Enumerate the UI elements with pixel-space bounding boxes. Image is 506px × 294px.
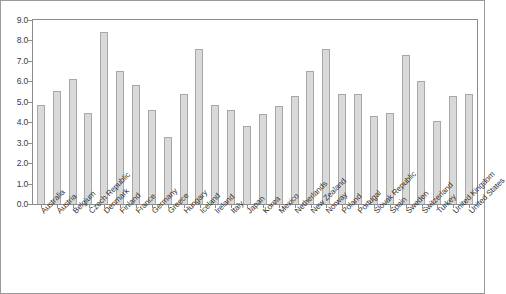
bar-slot <box>176 20 192 204</box>
bar <box>100 32 108 204</box>
bar <box>180 94 188 204</box>
bar-slot <box>461 20 477 204</box>
x-axis-labels: AustraliaAustriaBelgiumCzech RepublicDen… <box>33 209 477 293</box>
bar-slot <box>65 20 81 204</box>
y-axis-tick-label: 1.0 <box>17 179 28 189</box>
y-axis-tick-label: 8.0 <box>17 35 28 45</box>
bar <box>211 105 219 204</box>
bar <box>132 85 140 204</box>
bar <box>354 94 362 204</box>
bar <box>259 114 267 204</box>
y-axis-tick-label: 9.0 <box>17 15 28 25</box>
y-axis-tick-label: 4.0 <box>17 117 28 127</box>
y-axis-tick-mark <box>28 40 32 41</box>
y-axis-tick-mark <box>28 204 32 205</box>
y-axis-tick-mark <box>28 122 32 123</box>
bar-slot <box>160 20 176 204</box>
y-axis-tick-mark <box>28 143 32 144</box>
y-axis-tick-mark <box>28 102 32 103</box>
y-axis-tick-label: 6.0 <box>17 76 28 86</box>
bar-slot <box>350 20 366 204</box>
bar <box>291 96 299 204</box>
bar-slot <box>429 20 445 204</box>
bar <box>417 81 425 204</box>
y-axis-tick-mark <box>28 81 32 82</box>
bar-slot <box>382 20 398 204</box>
bar <box>243 126 251 204</box>
bar-slot <box>192 20 208 204</box>
bar-slot <box>207 20 223 204</box>
bar-slot <box>318 20 334 204</box>
y-axis-tick-label: 3.0 <box>17 138 28 148</box>
y-axis-tick-label: 5.0 <box>17 97 28 107</box>
bar-slot <box>144 20 160 204</box>
y-axis-tick-label: 2.0 <box>17 158 28 168</box>
bar-slot <box>239 20 255 204</box>
bar <box>195 49 203 204</box>
bar <box>37 105 45 204</box>
y-axis-tick-mark <box>28 163 32 164</box>
bar-slot <box>287 20 303 204</box>
y-axis: 9.08.07.06.05.04.03.02.01.00.0 <box>1 19 28 205</box>
bar-slot <box>255 20 271 204</box>
bar-slot <box>96 20 112 204</box>
y-axis-tick-mark <box>28 61 32 62</box>
bar-slot <box>81 20 97 204</box>
y-axis-tick-mark <box>28 184 32 185</box>
bar-slot <box>33 20 49 204</box>
y-axis-tick-label: 0.0 <box>17 199 28 209</box>
bar <box>306 71 314 204</box>
bar-slot <box>445 20 461 204</box>
bar <box>227 110 235 204</box>
bar <box>275 106 283 204</box>
bar-slot <box>223 20 239 204</box>
y-axis-tick-mark <box>28 20 32 21</box>
bar-slot <box>271 20 287 204</box>
bar <box>148 110 156 204</box>
y-axis-tick-label: 7.0 <box>17 56 28 66</box>
bar-slot <box>303 20 319 204</box>
bar-slot <box>366 20 382 204</box>
bar-slot <box>49 20 65 204</box>
bar <box>69 79 77 204</box>
